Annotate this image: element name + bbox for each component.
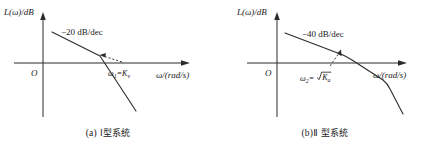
panel-a-caption: (a) Ⅰ型系统: [0, 126, 216, 140]
x-axis-arrow-icon: [398, 60, 407, 66]
x-axis-label: ω/(rad/s): [373, 70, 406, 80]
caption-index: (b): [302, 128, 314, 138]
y-axis: [40, 12, 46, 117]
y-axis-label: L(ω)/dB: [236, 7, 267, 17]
caption-index: (a): [86, 128, 97, 138]
svg-text:Ka: Ka: [321, 73, 330, 83]
y-axis-arrow-icon: [274, 12, 280, 20]
x-axis-arrow-icon: [181, 60, 190, 66]
x-axis: [247, 60, 407, 66]
panel-type-2: L(ω)/dB ω/(rad/s) O −40 dB/dec ω2= Ka: [217, 0, 433, 147]
slope-label: −40 dB/dec: [302, 29, 344, 39]
figure-root: L(ω)/dB ω/(rad/s) O −20 dB/dec ω1=Kv: [0, 0, 433, 147]
x-axis: [14, 60, 190, 66]
y-axis-arrow-icon: [40, 12, 46, 20]
svg-text:ω2=: ω2=: [300, 74, 314, 84]
crossover-frequency-label: ω2= Ka: [300, 72, 331, 84]
panel-b-plot: L(ω)/dB ω/(rad/s) O −40 dB/dec ω2= Ka: [217, 0, 433, 128]
origin-label: O: [31, 68, 38, 78]
caption-text: 型系统: [321, 128, 349, 138]
crossover-frequency-label: ω1=Kv: [108, 69, 130, 79]
panel-a-plot: L(ω)/dB ω/(rad/s) O −20 dB/dec ω1=Kv: [0, 0, 216, 128]
x-axis-label: ω/(rad/s): [156, 70, 189, 80]
panel-b-caption: (b)Ⅱ 型系统: [217, 126, 433, 140]
caption-text: 型系统: [103, 128, 131, 138]
svg-text:ω1=Kv: ω1=Kv: [108, 69, 130, 79]
slope-label: −20 dB/dec: [61, 27, 103, 37]
origin-label: O: [265, 68, 272, 78]
panel-type-1: L(ω)/dB ω/(rad/s) O −20 dB/dec ω1=Kv: [0, 0, 216, 147]
y-axis-label: L(ω)/dB: [3, 7, 34, 17]
y-axis: [274, 12, 280, 117]
